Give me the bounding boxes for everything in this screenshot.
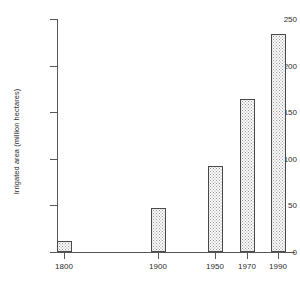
x-tick-label: 1970 — [238, 262, 256, 271]
y-axis-label-text: Irrigated area (million hectares) — [13, 89, 22, 195]
x-tick-label: 1950 — [206, 262, 224, 271]
y-tick-mark — [50, 205, 57, 206]
bar-1800 — [57, 241, 72, 252]
x-tick-mark — [247, 253, 248, 259]
bar-chart: Irrigated area (million hectares) 050100… — [0, 0, 300, 283]
y-tick-mark — [50, 19, 57, 20]
y-axis-line — [57, 19, 58, 253]
y-tick-mark — [50, 252, 57, 253]
x-tick-mark — [64, 253, 65, 259]
x-tick-mark — [278, 253, 279, 259]
y-axis-label: Irrigated area (million hectares) — [6, 0, 28, 283]
y-tick-mark — [50, 66, 57, 67]
y-tick-label: 250 — [256, 15, 300, 24]
x-tick-label: 1990 — [269, 262, 287, 271]
x-tick-label: 1800 — [55, 262, 73, 271]
bar-1970 — [240, 99, 255, 252]
x-tick-mark — [158, 253, 159, 259]
bar-1900 — [151, 208, 166, 252]
x-tick-mark — [215, 253, 216, 259]
bar-1950 — [208, 166, 223, 252]
bar-1990 — [271, 34, 286, 252]
y-tick-mark — [50, 159, 57, 160]
y-tick-mark — [50, 112, 57, 113]
x-tick-label: 1900 — [149, 262, 167, 271]
